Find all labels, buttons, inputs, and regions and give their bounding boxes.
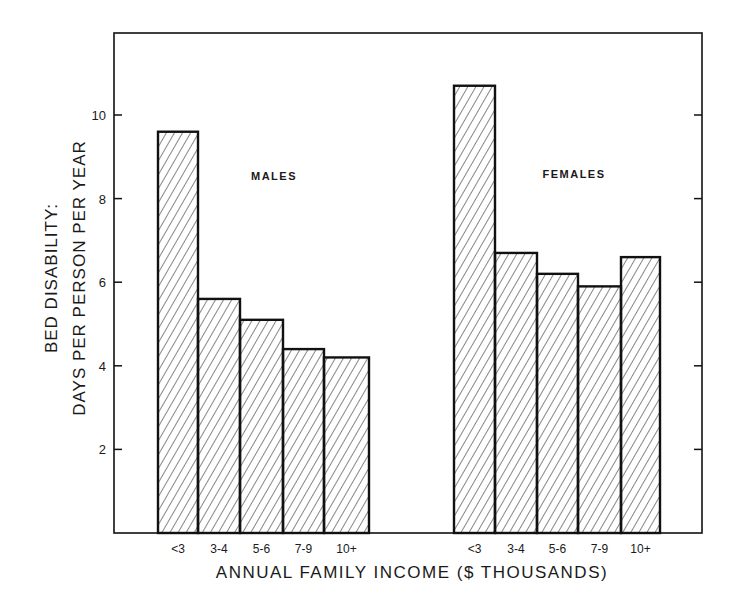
bar-males-2 (240, 320, 283, 533)
x-tick-label: 5-6 (549, 542, 567, 556)
bars (158, 86, 660, 533)
bar-females-0 (454, 86, 495, 533)
y-tick-label: 4 (99, 359, 106, 374)
y-tick-label: 6 (99, 275, 106, 290)
x-tick-label: 3-4 (507, 542, 525, 556)
x-tick-label: 3-4 (210, 542, 228, 556)
bar-chart: 246810 <33-45-67-910+MALES<33-45-67-910+… (0, 0, 744, 614)
y-tick-label: 2 (99, 442, 106, 457)
bar-males-4 (324, 357, 369, 533)
bar-males-3 (283, 349, 324, 533)
x-tick-label: 7-9 (591, 542, 609, 556)
bar-females-4 (621, 257, 660, 533)
x-tick-label: 10+ (336, 542, 356, 556)
group-label-females: FEMALES (542, 168, 605, 180)
bar-females-1 (495, 253, 537, 533)
y-tick-label: 10 (92, 108, 106, 123)
y-axis-label-line1: BED DISABILITY: (42, 203, 62, 353)
x-tick-label: 10+ (630, 542, 650, 556)
x-tick-label: <3 (468, 542, 482, 556)
bar-females-2 (537, 274, 578, 533)
x-tick-label: <3 (171, 542, 185, 556)
bar-males-0 (158, 132, 198, 533)
x-tick-label: 7-9 (295, 542, 313, 556)
bar-males-1 (198, 299, 240, 533)
x-axis-title: ANNUAL FAMILY INCOME ($ THOUSANDS) (0, 563, 744, 583)
x-tick-label: 5-6 (253, 542, 271, 556)
y-tick-label: 8 (99, 192, 106, 207)
group-label-males: MALES (251, 170, 297, 182)
y-axis-label-line2: DAYS PER PERSON PER YEAR (70, 140, 90, 416)
bar-females-3 (578, 286, 621, 533)
